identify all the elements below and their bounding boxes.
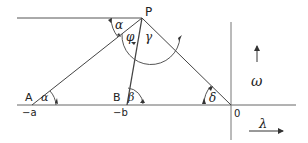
label-A: A <box>25 91 33 104</box>
label-alpha-top: α <box>115 18 123 32</box>
label-lambda: λ <box>258 116 267 131</box>
geometry-diagram: P A B 0 −a −b ω λ α φ γ α β δ <box>0 0 308 143</box>
label-beta: β <box>127 91 134 104</box>
label-delta: δ <box>209 91 216 105</box>
label-minus-b: −b <box>113 107 128 118</box>
label-B: B <box>113 91 121 104</box>
label-alpha-A: α <box>41 91 49 104</box>
label-minus-a: −a <box>22 107 37 118</box>
line-PO <box>142 18 231 105</box>
label-phi: φ <box>126 30 135 44</box>
label-P: P <box>145 5 152 19</box>
label-O: 0 <box>234 108 240 119</box>
label-gamma: γ <box>145 30 153 44</box>
label-omega: ω <box>251 73 263 89</box>
